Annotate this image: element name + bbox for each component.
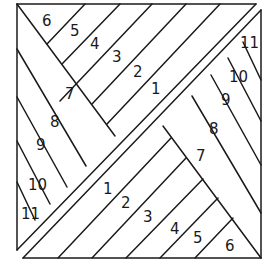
divider-4-5-lower: [160, 198, 218, 258]
strip-label-10-right: 10: [229, 68, 248, 86]
divider-1-2-lower: [58, 138, 171, 258]
upper-left-half: 6 5 4 3 2 1 7 8 9 10 11: [17, 4, 256, 250]
strip-label-8: 8: [50, 113, 60, 131]
strip-label-3: 3: [112, 48, 122, 66]
strip-label-5: 5: [70, 22, 80, 40]
strip-label-7-right: 7: [196, 147, 206, 165]
strip-label-2-lower: 2: [121, 194, 131, 212]
divider-3-4-lower: [126, 179, 203, 258]
strip-label-9: 9: [36, 136, 46, 154]
strip-label-1: 1: [151, 80, 161, 98]
strip-label-5-lower: 5: [193, 229, 203, 247]
strip-label-7: 7: [65, 85, 75, 103]
divider-7-8: [17, 49, 86, 166]
strip-label-11: 11: [21, 205, 40, 223]
strip-label-1-lower: 1: [103, 180, 113, 198]
strip-diagram: 6 5 4 3 2 1 7 8 9 10 11 11 10 9 8 7 1: [0, 0, 276, 265]
strip-label-9-right: 9: [221, 91, 231, 109]
strip-label-6-lower: 6: [225, 237, 235, 255]
divider-2-1: [107, 4, 220, 124]
strip-label-6: 6: [42, 12, 52, 30]
lower-right-half: 11 10 9 8 7 1 2 3 4 5 6: [23, 10, 261, 258]
strip-label-11-right: 11: [240, 34, 259, 52]
strip-label-8-right: 8: [209, 120, 219, 138]
band-lower-line: [23, 10, 261, 258]
main-diagonal-lower: [163, 126, 261, 258]
strip-label-4-lower: 4: [170, 220, 180, 238]
strip-label-3-lower: 3: [143, 208, 153, 226]
strip-label-2: 2: [133, 63, 143, 81]
strip-label-10: 10: [28, 176, 47, 194]
strip-label-4: 4: [90, 35, 100, 53]
